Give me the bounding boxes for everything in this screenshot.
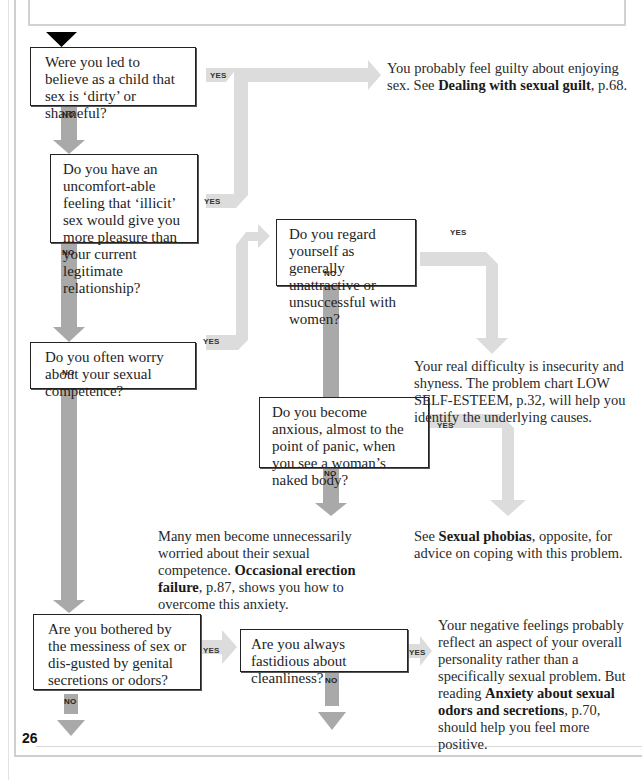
answer-4-reference: Sexual phobias (439, 528, 532, 544)
question-box-6: Are you bothered by the messiness of sex… (33, 614, 201, 690)
yes-label-3: YES (203, 337, 220, 346)
no-label-7: NO (325, 676, 337, 685)
no-label-6: NO (64, 697, 76, 706)
answer-2: Your real difficulty is insecurity and s… (414, 358, 639, 426)
answer-1: You probably feel guilty about enjoying … (387, 60, 637, 94)
question-6-text: Are you bothered by the messiness of sex… (48, 621, 186, 688)
yes-label-2: YES (204, 197, 221, 206)
answer-5: Your negative feelings probably reflect … (438, 617, 634, 753)
question-box-3: Do you often worry about your sexual com… (30, 342, 196, 389)
question-box-5: Do you become anxious, almost to the poi… (259, 397, 429, 468)
no-label-5: NO (324, 469, 336, 478)
start-marker-icon (46, 32, 77, 47)
no-label-1: NO (62, 110, 74, 119)
question-box-1: Were you led to believe as a child that … (30, 47, 196, 106)
yes-label-7: YES (409, 648, 426, 657)
no-label-2: NO (62, 248, 74, 257)
no-label-3: NO (62, 368, 74, 377)
no-label-4: NO (324, 269, 336, 278)
answer-1-page: , p.68. (591, 77, 627, 93)
answer-1-reference: Dealing with sexual guilt (438, 77, 591, 93)
yes-label-6: YES (203, 646, 220, 655)
page-number: 26 (18, 730, 42, 746)
answer-4: See Sexual phobias, opposite, for advice… (414, 528, 639, 562)
answer-3: Many men become unnecessarily worried ab… (158, 528, 378, 613)
answer-4-text: See (414, 528, 439, 544)
answer-2-text: Your real difficulty is insecurity and s… (414, 358, 625, 425)
yes-label-1: YES (210, 71, 227, 80)
question-box-7: Are you always fastidious about cleanlin… (240, 629, 408, 672)
question-box-4: Do you regard yourself as generally unat… (276, 219, 416, 286)
yes-label-4: YES (450, 228, 467, 237)
question-box-2: Do you have an uncomfort-able feeling th… (50, 154, 198, 243)
